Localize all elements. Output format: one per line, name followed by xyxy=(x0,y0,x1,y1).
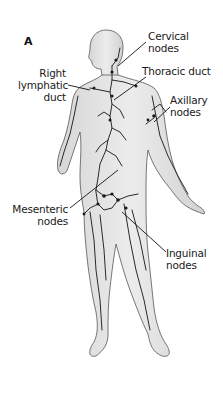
label-line: Inguinal xyxy=(166,247,206,259)
label-line: Thoracic duct xyxy=(142,65,211,77)
label-thoracic-duct: Thoracic duct xyxy=(142,65,211,77)
label-line: nodes xyxy=(170,106,208,118)
lymphatic-system-figure xyxy=(0,0,223,401)
label-line: Right xyxy=(18,67,66,79)
label-line: lymphatic xyxy=(18,79,66,91)
label-line: nodes xyxy=(166,259,206,271)
label-line: nodes xyxy=(148,42,189,54)
label-inguinal-nodes: Inguinal nodes xyxy=(166,247,206,271)
label-line: duct xyxy=(18,91,66,103)
panel-label: A xyxy=(24,35,33,48)
label-mesenteric-nodes: Mesenteric nodes xyxy=(10,203,68,227)
body-silhouette xyxy=(57,30,204,356)
label-line: nodes xyxy=(10,215,68,227)
label-line: Mesenteric xyxy=(10,203,68,215)
label-axillary-nodes: Axillary nodes xyxy=(170,94,208,118)
label-line: Axillary xyxy=(170,94,208,106)
label-cervical-nodes: Cervical nodes xyxy=(148,30,189,54)
label-right-lymphatic-duct: Right lymphatic duct xyxy=(18,67,66,103)
label-line: Cervical xyxy=(148,30,189,42)
